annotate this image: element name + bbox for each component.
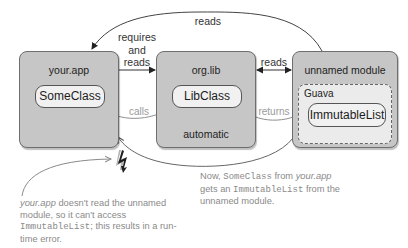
class-immutablelist: ImmutableList [308,103,386,127]
note-runtime-error: your.app doesn't read the unnamed module… [20,198,190,245]
module-title: org.lib [157,64,255,76]
note-pointer-arrow [22,159,111,196]
module-title: your.app [20,64,118,76]
module-org-lib: org.lib LibClass automatic [156,51,256,148]
label-calls: calls [124,106,154,119]
guava-group: Guava ImmutableList [298,84,392,144]
lightning-bolt-icon [116,150,127,173]
module-footer-automatic: automatic [157,128,255,140]
label-lib-unnamed-reads: reads [257,56,291,69]
label-top-reads: reads [192,15,224,28]
class-libclass: LibClass [172,85,242,108]
class-someclass: SomeClass [35,85,105,108]
label-returns: returns [256,106,292,119]
guava-label: Guava [304,88,333,99]
note-gets-immutablelist: Now, SomeClass from your.app gets an Imm… [200,171,340,208]
module-your-app: your.app SomeClass [19,51,119,148]
module-title: unnamed module [293,64,397,76]
label-requires-and-reads: requires and reads [118,31,156,69]
module-unnamed: unnamed module Guava ImmutableList [292,51,398,148]
